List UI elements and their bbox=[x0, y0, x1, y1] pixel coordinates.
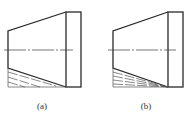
hidden-line-a-2 bbox=[8, 77, 40, 87]
hidden-line-a-3 bbox=[8, 82, 25, 87]
taper-outline-b bbox=[113, 12, 168, 87]
taper-outline-a bbox=[8, 12, 66, 87]
caption-a: (a) bbox=[27, 101, 57, 111]
figure-b bbox=[108, 12, 183, 87]
figure-a bbox=[4, 12, 81, 87]
shoulder-rect-a bbox=[66, 12, 81, 87]
shoulder-rect-b bbox=[168, 12, 183, 87]
caption-b: (b) bbox=[131, 101, 161, 111]
